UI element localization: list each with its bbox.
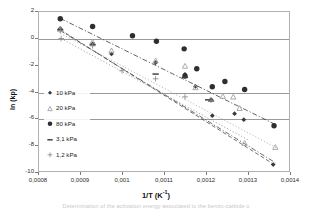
legend-item-3-1-kpa[interactable]: 3,1 kPa (44, 132, 90, 148)
data-point (182, 94, 188, 100)
y-tick-mark (35, 65, 38, 66)
data-point (220, 94, 225, 99)
trendline-3-1-kpa (60, 30, 273, 164)
data-point (182, 63, 187, 68)
legend-item-10-kpa[interactable]: 10 kPa (44, 85, 90, 101)
x-axis-label: 1/T (K-1) (0, 189, 312, 200)
legend-marker-diamond-icon (44, 85, 56, 101)
legend-item-80-kpa[interactable]: 80 kPa (44, 116, 90, 132)
y-tick-mark (35, 11, 38, 12)
y-tick-mark (35, 92, 38, 93)
x-axis-label-tail: ) (168, 191, 171, 200)
data-point (222, 79, 227, 84)
data-point (194, 66, 199, 71)
data-point (109, 52, 114, 57)
legend-item-20-kpa[interactable]: 20 kPa (44, 101, 90, 117)
chart-legend: 10 kPa20 kPa80 kPa3,1 kPa1,2 kPa (44, 85, 90, 163)
x-tick-mark (248, 172, 249, 175)
y-tick-label: 2 (8, 7, 34, 13)
data-point (208, 97, 214, 103)
legend-label: 80 kPa (56, 120, 75, 127)
y-tick-mark (35, 145, 38, 146)
x-tick-mark (290, 172, 291, 175)
x-tick-label: 0,001 (104, 177, 140, 183)
y-tick-label: -10 (8, 168, 34, 174)
data-point (58, 36, 64, 42)
y-tick-label: -4 (8, 88, 34, 94)
legend-label: 1,2 kPa (56, 151, 77, 158)
y-tick-label: -6 (8, 114, 34, 120)
data-point (130, 33, 135, 38)
x-tick-label: 0,0012 (188, 177, 224, 183)
x-tick-label: 0,0009 (62, 177, 98, 183)
data-point (271, 123, 276, 128)
x-tick-label: 0,0014 (272, 177, 308, 183)
trendline-80-kpa (60, 18, 276, 125)
x-tick-mark (38, 172, 39, 175)
data-point (90, 24, 95, 29)
y-tick-label: -8 (8, 141, 34, 147)
figure-container: ln (kp) 1/T (K-1) 10 kPa20 kPa80 kPa3,1 … (0, 0, 312, 214)
legend-marker-circle-icon (44, 116, 56, 132)
legend-label: 10 kPa (56, 89, 75, 96)
legend-marker-plus-icon (44, 147, 56, 163)
data-point (58, 16, 63, 21)
data-point (181, 46, 186, 51)
x-tick-mark (164, 172, 165, 175)
data-point (231, 94, 236, 99)
y-tick-label: -2 (8, 61, 34, 67)
x-tick-mark (122, 172, 123, 175)
legend-label: 3,1 kPa (56, 135, 77, 142)
x-tick-label: 0,0013 (230, 177, 266, 183)
data-point (241, 117, 246, 122)
data-point (154, 38, 159, 43)
x-axis-label-base: 1/T (K (142, 191, 163, 200)
y-tick-mark (35, 118, 38, 119)
x-tick-label: 0,0008 (20, 177, 56, 183)
data-point (210, 113, 215, 118)
x-tick-mark (206, 172, 207, 175)
data-point (237, 106, 242, 111)
series-10-kpa (58, 26, 276, 167)
legend-label: 20 kPa (56, 104, 75, 111)
legend-item-1-2-kpa[interactable]: 1,2 kPa (44, 147, 90, 163)
data-point (242, 87, 247, 92)
y-tick-label: 0 (8, 34, 34, 40)
y-tick-mark (35, 38, 38, 39)
x-tick-label: 0,0011 (146, 177, 182, 183)
x-tick-mark (80, 172, 81, 175)
legend-marker-triangle-icon (44, 101, 56, 117)
figure-caption: Determination of the activation energy a… (0, 203, 312, 209)
data-point (232, 111, 237, 116)
data-point (210, 84, 215, 89)
data-point (153, 76, 159, 82)
legend-marker-dash-icon (44, 132, 56, 148)
